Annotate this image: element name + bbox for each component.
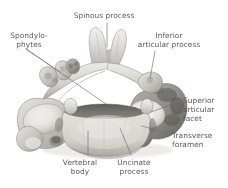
label-vertebral-body: Vertebral body: [56, 158, 104, 176]
label-superior-articular-facet: Superior articular facet: [183, 96, 228, 124]
label-spondylophytes: Spondylo- phytes: [2, 31, 56, 49]
label-inferior-articular-process: Inferior articular process: [129, 31, 209, 49]
anatomical-figure: Spinous process Spondylo- phytes Inferio…: [0, 0, 228, 188]
label-spinous-process: Spinous process: [66, 11, 142, 20]
label-transverse-foramen: Transverse foramen: [172, 131, 228, 149]
label-uncinate-process: Uncinate process: [110, 158, 158, 176]
